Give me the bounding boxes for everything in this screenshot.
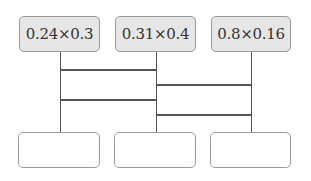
top-box-3: 0.8×0.16 bbox=[211, 16, 291, 52]
top-box-2: 0.31×0.4 bbox=[115, 16, 196, 52]
expression-label-1: 0.24×0.3 bbox=[26, 25, 93, 43]
ladder-rung-3 bbox=[60, 99, 157, 101]
ladder-rung-2 bbox=[156, 84, 252, 86]
answer-box-1[interactable] bbox=[18, 132, 100, 168]
ladder-rung-4 bbox=[156, 114, 252, 116]
answer-box-3[interactable] bbox=[210, 132, 291, 168]
expression-label-3: 0.8×0.16 bbox=[217, 25, 284, 43]
ladder-rail-3 bbox=[251, 52, 252, 132]
expression-label-2: 0.31×0.4 bbox=[122, 25, 189, 43]
top-box-1: 0.24×0.3 bbox=[19, 16, 100, 52]
ladder-rail-2 bbox=[156, 52, 157, 132]
ladder-rail-1 bbox=[60, 52, 61, 132]
ladder-rung-1 bbox=[60, 69, 157, 71]
answer-box-2[interactable] bbox=[114, 132, 196, 168]
